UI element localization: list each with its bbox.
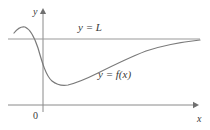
figure-container: y x 0 y = L y = f(x) [0, 0, 210, 130]
origin-label: 0 [33, 110, 38, 121]
y-axis-arrow-icon [40, 8, 46, 14]
x-axis-label: x [196, 113, 202, 124]
curve-label: y = f(x) [97, 68, 131, 81]
y-axis-label: y [32, 6, 38, 17]
asymptote-graph: y x 0 y = L y = f(x) [0, 0, 210, 130]
asymptote-label: y = L [77, 21, 102, 33]
x-axis-arrow-icon [193, 102, 199, 108]
